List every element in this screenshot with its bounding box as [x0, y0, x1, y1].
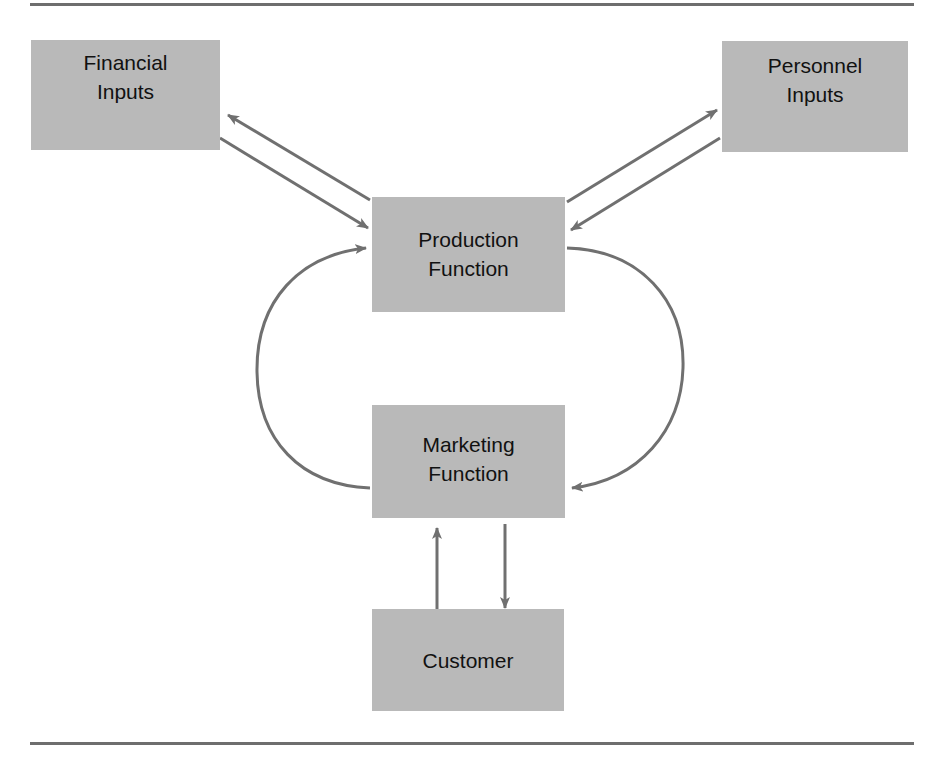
arrow-personnel-to-production — [571, 138, 720, 230]
node-marketing-function: Marketing Function — [372, 405, 565, 518]
node-customer: Customer — [372, 609, 564, 711]
node-financial-inputs: Financial Inputs — [31, 40, 220, 150]
node-label: Function — [428, 254, 509, 283]
arrow-financial-to-production — [220, 138, 368, 228]
node-label: Financial — [83, 48, 167, 77]
node-label: Customer — [422, 646, 513, 675]
node-label: Personnel — [768, 51, 863, 80]
node-personnel-inputs: Personnel Inputs — [722, 41, 908, 152]
node-label: Inputs — [97, 77, 154, 106]
node-label: Marketing — [422, 430, 514, 459]
arrow-production-to-personnel — [567, 110, 717, 202]
node-label: Production — [418, 225, 518, 254]
node-label: Inputs — [786, 80, 843, 109]
node-production-function: Production Function — [372, 197, 565, 312]
node-label: Function — [428, 459, 509, 488]
arrow-marketing-to-production — [257, 248, 370, 488]
arrow-production-to-marketing — [567, 248, 683, 488]
